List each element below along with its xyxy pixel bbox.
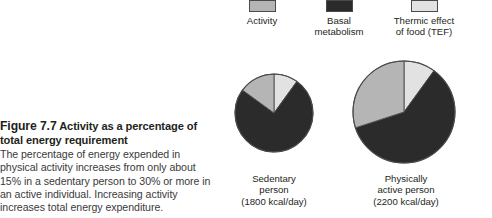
legend-swatch-icon-thermic-effect-of-food xyxy=(411,0,438,12)
legend: Activity Basal metabolism Thermic effect… xyxy=(222,0,492,46)
legend-item-thermic-effect-of-food[interactable]: Thermic effect of food (TEF) xyxy=(374,0,474,37)
pie-slice-active-1 xyxy=(356,71,456,163)
pie-outline-active xyxy=(353,61,455,163)
pie-slice-active-2 xyxy=(353,61,404,128)
legend-label-thermic-effect-of-food: Thermic effect of food (TEF) xyxy=(374,15,474,37)
pie-slice-sedentary-2 xyxy=(242,74,274,113)
legend-item-activity[interactable]: Activity xyxy=(222,0,302,26)
legend-swatch-icon-basal-metabolism xyxy=(326,0,353,12)
pie-sedentary xyxy=(235,74,313,152)
pie-slice-sedentary-1 xyxy=(235,81,313,152)
figure-number: Figure 7.7 xyxy=(0,119,57,133)
legend-swatch-icon-activity xyxy=(249,0,276,12)
pie-caption-sedentary: Sedentary person (1800 kcal/day) xyxy=(228,173,320,207)
figure-caption-block: Figure 7.7 Activity as a percentage of t… xyxy=(0,120,214,215)
pie-outline-sedentary xyxy=(235,74,313,152)
legend-item-basal-metabolism[interactable]: Basal metabolism xyxy=(299,0,379,37)
pie-active xyxy=(353,61,455,163)
pie-slice-sedentary-0 xyxy=(274,74,297,113)
pie-caption-active: Physically active person (2200 kcal/day) xyxy=(347,173,465,207)
legend-label-activity: Activity xyxy=(222,15,302,26)
figure-caption-heading: Figure 7.7 Activity as a percentage of t… xyxy=(0,120,214,147)
pie-slice-active-0 xyxy=(404,61,434,112)
figure-caption-body: The percentage of energy expended in phy… xyxy=(0,148,214,214)
legend-label-basal-metabolism: Basal metabolism xyxy=(299,15,379,37)
